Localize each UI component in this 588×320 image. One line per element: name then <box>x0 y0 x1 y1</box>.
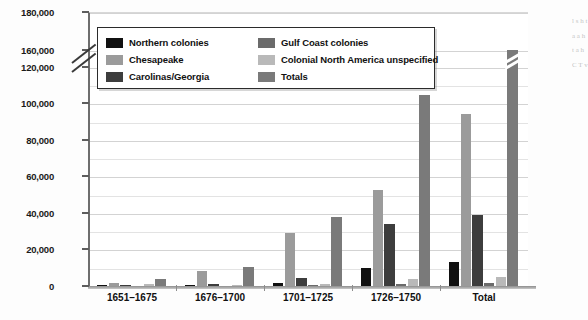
x-axis-tick-mark <box>440 285 441 291</box>
y-axis-tick-label: 100,000 <box>21 98 54 109</box>
legend-label: Totals <box>281 71 308 82</box>
bar-chesapeake <box>197 271 207 286</box>
y-axis-tick-label: 0 <box>49 281 54 292</box>
y-axis-tick-label: 40,000 <box>26 207 54 218</box>
y-axis-tick-label: 160,000 <box>21 45 54 56</box>
legend-item: Carolinas/Georgia <box>106 68 258 85</box>
bar-chart: 020,00040,00060,00080,000100,000120,0001… <box>0 0 588 320</box>
bar-gulf-coast-colonies <box>308 285 318 287</box>
bar-carolinas-georgia <box>472 215 482 286</box>
chart-legend: Northern coloniesGulf Coast coloniesChes… <box>97 27 435 89</box>
y-axis-tick-label: 60,000 <box>26 171 54 182</box>
bar-carolinas-georgia <box>296 278 306 286</box>
bar-totals <box>507 50 517 286</box>
legend-item: Gulf Coast colonies <box>258 34 438 51</box>
bar-gulf-coast-colonies <box>396 284 406 286</box>
bar-carolinas-georgia <box>384 224 394 286</box>
legend-label: Colonial North America unspecified <box>281 54 438 65</box>
x-axis-line <box>88 286 536 289</box>
legend-swatch-icon <box>106 72 123 82</box>
legend-item: Totals <box>258 68 438 85</box>
x-axis-category-label: 1676–1700 <box>195 292 245 303</box>
page-edge-text-fragment: l s h t a a h t a h C T v <box>572 14 588 196</box>
legend-label: Carolinas/Georgia <box>129 71 209 82</box>
bar-totals <box>419 95 429 286</box>
bar-gulf-coast-colonies <box>484 283 494 286</box>
y-axis-tick-label: 180,000 <box>21 7 54 18</box>
bar-chesapeake <box>109 283 119 286</box>
x-axis-category-label: 1726–1750 <box>371 292 421 303</box>
bar-northern-colonies <box>361 268 371 286</box>
bar-northern-colonies <box>449 262 459 286</box>
legend-swatch-icon <box>106 38 123 48</box>
bar-chesapeake <box>461 114 471 286</box>
legend-swatch-icon <box>258 38 275 48</box>
y-axis-tick-label: 120,000 <box>21 61 54 72</box>
bar-colonial-north-america-unspecified <box>144 284 154 286</box>
legend-item: Colonial North America unspecified <box>258 51 438 68</box>
bar-totals <box>155 279 165 286</box>
bar-colonial-north-america-unspecified <box>320 284 330 286</box>
bar-northern-colonies <box>185 285 195 287</box>
legend-swatch-icon <box>106 55 123 65</box>
legend-item: Northern colonies <box>106 34 258 51</box>
x-axis-tick-mark <box>264 285 265 291</box>
legend-label: Gulf Coast colonies <box>281 37 368 48</box>
x-axis-category-label: 1701–1725 <box>283 292 333 303</box>
y-axis-tick-label: 20,000 <box>26 244 54 255</box>
bar-carolinas-georgia <box>120 285 130 287</box>
legend-swatch-icon <box>258 72 275 82</box>
y-axis-tick-label: 80,000 <box>26 134 54 145</box>
bar-totals <box>243 267 253 286</box>
bar-carolinas-georgia <box>208 284 218 286</box>
legend-label: Northern colonies <box>129 37 209 48</box>
bar-totals <box>331 217 341 286</box>
legend-label: Chesapeake <box>129 54 183 65</box>
bar-break-icon <box>504 54 520 68</box>
bar-colonial-north-america-unspecified <box>232 285 242 287</box>
x-axis-tick-mark <box>176 285 177 291</box>
x-axis-category-label: 1651–1675 <box>107 292 157 303</box>
bar-chesapeake <box>373 190 383 286</box>
x-axis-tick-mark <box>352 285 353 291</box>
bar-chesapeake <box>285 233 295 286</box>
bar-northern-colonies <box>273 283 283 286</box>
legend-swatch-icon <box>258 55 275 65</box>
bar-colonial-north-america-unspecified <box>408 279 418 286</box>
bar-northern-colonies <box>97 285 107 287</box>
x-axis-category-label: Total <box>472 292 495 303</box>
bar-colonial-north-america-unspecified <box>496 277 506 286</box>
legend-item: Chesapeake <box>106 51 258 68</box>
